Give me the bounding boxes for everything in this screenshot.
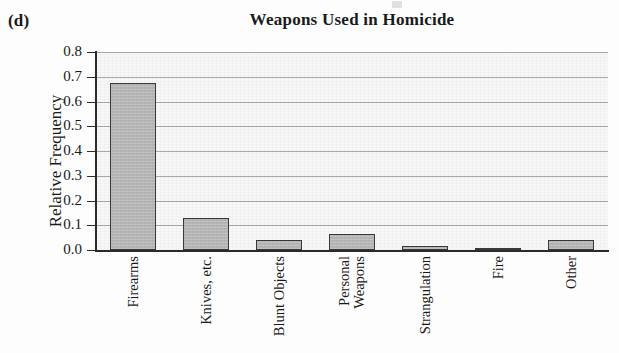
bar (183, 218, 229, 250)
bar-texture (257, 241, 301, 249)
y-axis-tick-label-wrap: 0.6 (38, 102, 82, 103)
y-axis-tick-label: 0.8 (38, 44, 82, 59)
x-axis-tick-label: Strangulation (418, 256, 433, 352)
y-axis-tick-label: 0.2 (38, 193, 82, 208)
y-axis-tick-label-wrap: 0.0 (38, 250, 82, 251)
y-axis-tick-label: 0.7 (38, 69, 82, 84)
figure-panel: (d) Weapons Used in Homicide Relative Fr… (0, 0, 619, 353)
plot-area (96, 52, 608, 250)
y-axis-tick (87, 250, 96, 251)
y-axis-tick-label-wrap: 0.4 (38, 151, 82, 152)
x-axis-tick-label: Personal Weapons (337, 256, 367, 352)
bar (548, 240, 594, 250)
gridline (96, 77, 608, 78)
gridline (96, 151, 608, 152)
bar-texture (330, 235, 374, 249)
chart-title: Weapons Used in Homicide (96, 10, 608, 30)
y-axis-tick (87, 126, 96, 127)
y-axis-tick-label: 0.0 (38, 242, 82, 257)
y-axis-tick-label-wrap: 0.8 (38, 52, 82, 53)
y-axis-tick-label: 0.6 (38, 94, 82, 109)
gridline (96, 225, 608, 226)
scan-artifact (392, 1, 402, 8)
x-axis-line (95, 250, 609, 252)
bar-texture (403, 247, 447, 249)
y-axis-tick-label-wrap: 0.1 (38, 225, 82, 226)
x-axis-tick-label: Blunt Objects (271, 256, 286, 352)
x-axis-tick-label: Fire (491, 256, 506, 352)
y-axis-tick-label: 0.1 (38, 217, 82, 232)
y-axis-tick-label: 0.3 (38, 168, 82, 183)
y-axis-tick (87, 52, 96, 53)
y-axis-tick (87, 176, 96, 177)
x-axis-tick-label: Firearms (125, 256, 140, 352)
bar-texture (184, 219, 228, 249)
panel-letter: (d) (8, 11, 29, 31)
y-axis-tick (87, 201, 96, 202)
y-axis-tick (87, 77, 96, 78)
y-axis-tick-label-wrap: 0.2 (38, 201, 82, 202)
y-axis-tick (87, 102, 96, 103)
y-axis-tick-label: 0.4 (38, 143, 82, 158)
x-axis-tick-label: Knives, etc. (198, 256, 213, 352)
y-axis-tick-label-wrap: 0.7 (38, 77, 82, 78)
bar-texture (549, 241, 593, 249)
bar (329, 234, 375, 250)
gridline (96, 201, 608, 202)
y-axis-tick-label-wrap: 0.5 (38, 126, 82, 127)
gridline (96, 176, 608, 177)
y-axis-tick-label: 0.5 (38, 118, 82, 133)
bar-texture (111, 84, 155, 249)
bar (256, 240, 302, 250)
x-axis-tick-label: Other (564, 256, 579, 352)
y-axis-tick (87, 225, 96, 226)
gridline (96, 52, 608, 53)
gridline (96, 102, 608, 103)
y-axis-tick (87, 151, 96, 152)
y-axis-tick-label-wrap: 0.3 (38, 176, 82, 177)
gridline (96, 126, 608, 127)
bar (110, 83, 156, 250)
